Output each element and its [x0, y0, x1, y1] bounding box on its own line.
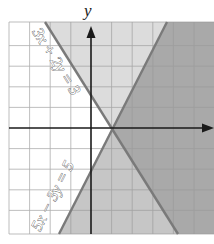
y-axis-label: y — [82, 1, 92, 20]
inequality-graph: y 3x + 2y = 3 5x − 3y = 5 — [0, 0, 214, 244]
